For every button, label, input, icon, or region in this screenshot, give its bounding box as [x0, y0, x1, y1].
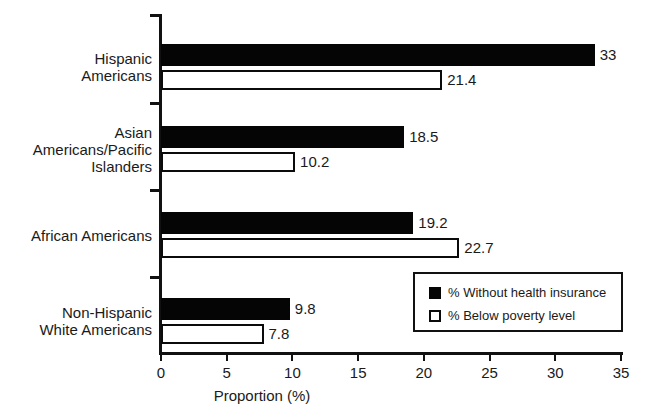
- x-tick-label-35: 35: [601, 364, 641, 381]
- legend-item-without-health-insurance: % Without health insurance: [429, 281, 621, 304]
- bar-series-1-category-2: [161, 238, 459, 258]
- x-axis-title: Proportion (%): [0, 387, 650, 404]
- bar-series-0-category-3: [161, 298, 290, 320]
- category-label-2: African Americans: [31, 227, 152, 244]
- x-tick-20: [423, 352, 425, 361]
- x-tick-0: [160, 352, 162, 361]
- category-label-0: Hispanic Americans: [81, 50, 152, 84]
- x-tick-label-0: 0: [141, 364, 181, 381]
- bar-series-1-category-0: [161, 70, 442, 90]
- legend-item-below-poverty-level: % Below poverty level: [429, 304, 621, 327]
- x-tick-5: [226, 352, 228, 361]
- bar-series-0-category-2: [161, 212, 413, 234]
- bar-value-label-series-1-category-0: 21.4: [447, 71, 476, 88]
- bar-series-1-category-1: [161, 152, 295, 172]
- bar-value-label-series-0-category-2: 19.2: [418, 214, 447, 231]
- legend-label-1: % Below poverty level: [448, 308, 575, 323]
- y-tick-3: [150, 276, 160, 279]
- x-tick-label-20: 20: [404, 364, 444, 381]
- bar-series-0-category-1: [161, 126, 404, 148]
- x-tick-30: [554, 352, 556, 361]
- x-tick-label-10: 10: [272, 364, 312, 381]
- x-tick-15: [357, 352, 359, 361]
- y-tick-2: [150, 189, 160, 192]
- x-tick-label-15: 15: [338, 364, 378, 381]
- legend-swatch-filled-icon: [429, 287, 441, 299]
- bar-series-1-category-3: [161, 324, 264, 344]
- legend-label-0: % Without health insurance: [448, 285, 606, 300]
- x-tick-10: [291, 352, 293, 361]
- category-label-1: Asian Americans/Pacific Islanders: [33, 124, 152, 175]
- legend-swatch-hollow-icon: [429, 310, 441, 322]
- chart-legend: % Without health insurance % Below pover…: [413, 272, 623, 332]
- bar-series-0-category-0: [161, 44, 595, 66]
- x-tick-35: [620, 352, 622, 361]
- x-tick-25: [489, 352, 491, 361]
- category-label-3: Non-Hispanic White Americans: [39, 304, 152, 338]
- x-tick-label-5: 5: [207, 364, 247, 381]
- bar-value-label-series-1-category-2: 22.7: [464, 239, 493, 256]
- bar-value-label-series-0-category-3: 9.8: [295, 300, 316, 317]
- bar-value-label-series-0-category-0: 33: [600, 46, 617, 63]
- y-tick-0: [150, 14, 160, 17]
- bar-value-label-series-1-category-3: 7.8: [269, 325, 290, 342]
- x-axis-title-text: Proportion (%): [214, 387, 311, 404]
- bar-chart: 05101520253035 Hispanic AmericansAsian A…: [0, 0, 650, 420]
- bar-value-label-series-1-category-1: 10.2: [300, 153, 329, 170]
- bar-value-label-series-0-category-1: 18.5: [409, 128, 438, 145]
- y-tick-1: [150, 102, 160, 105]
- x-tick-label-25: 25: [470, 364, 510, 381]
- x-tick-label-30: 30: [535, 364, 575, 381]
